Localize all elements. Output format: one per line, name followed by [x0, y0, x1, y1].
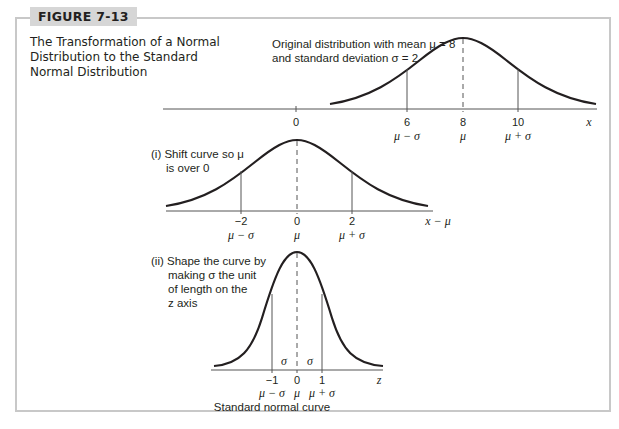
- tick-label: −2: [235, 215, 248, 227]
- panel-original: Original distribution with mean μ = 8 an…: [163, 38, 597, 143]
- tick-sublabel: μ + σ: [504, 129, 532, 143]
- tick-sublabel: μ − σ: [258, 386, 286, 400]
- tick-sublabel: μ: [293, 386, 300, 400]
- sigma-width-label: σ: [281, 354, 288, 368]
- tick-sublabel: μ − σ: [393, 129, 421, 143]
- tick-label: 1: [319, 374, 325, 386]
- tick-label: 2: [349, 215, 355, 227]
- axis-label: z: [376, 373, 382, 387]
- caption-line: is over 0: [166, 162, 209, 174]
- caption-line: of length on the: [168, 283, 247, 295]
- caption-line: (i) Shift curve so μ: [151, 148, 244, 160]
- panel-standard: (ii) Shape the curve by making σ the uni…: [151, 252, 383, 413]
- caption-line: and standard deviation σ = 2: [272, 52, 418, 64]
- tick-sublabel: μ + σ: [338, 228, 366, 242]
- tick-label: −1: [266, 374, 279, 386]
- caption-line: Original distribution with mean μ = 8: [272, 38, 455, 50]
- axis-label: x: [585, 115, 592, 129]
- tick-sublabel: μ: [293, 228, 300, 242]
- panel-shifted: (i) Shift curve so μ is over 0 −2 0 2 x …: [151, 140, 451, 242]
- tick-label: 0: [294, 215, 300, 227]
- tick-label: 8: [460, 116, 466, 128]
- tick-sublabel: μ + σ: [308, 386, 336, 400]
- tick-label: 10: [512, 116, 524, 128]
- caption-line: z axis: [168, 297, 198, 309]
- tick-sublabel: μ − σ: [227, 228, 255, 242]
- tick-label: 0: [293, 116, 299, 128]
- tick-sublabel: μ: [459, 129, 466, 143]
- sigma-width-label: σ: [307, 354, 314, 368]
- axis-label: x − μ: [424, 214, 450, 228]
- tick-label: 6: [404, 116, 410, 128]
- standard-normal-footer: Standard normal curve: [214, 401, 330, 413]
- caption-line: (ii) Shape the curve by: [151, 255, 266, 267]
- caption-line: making σ the unit: [168, 269, 257, 281]
- diagram-canvas: Original distribution with mean μ = 8 an…: [0, 0, 619, 429]
- tick-label: 0: [294, 374, 300, 386]
